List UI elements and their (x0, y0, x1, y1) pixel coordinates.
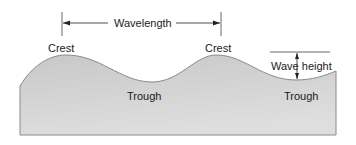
wave-graphic (0, 0, 356, 145)
trough-label-right: Trough (284, 90, 318, 102)
wave-height-label: Wave height (271, 60, 332, 72)
arrowhead-up-icon (295, 53, 299, 59)
wave-diagram: Wavelength Crest Crest Trough Trough Wav… (0, 0, 356, 145)
arrowhead-right-icon (213, 21, 220, 26)
crest-label-left: Crest (48, 42, 74, 54)
trough-label-left: Trough (127, 90, 161, 102)
crest-label-right: Crest (205, 42, 231, 54)
arrowhead-down-icon (295, 73, 299, 79)
arrowhead-left-icon (63, 21, 70, 26)
wavelength-label: Wavelength (112, 17, 174, 29)
